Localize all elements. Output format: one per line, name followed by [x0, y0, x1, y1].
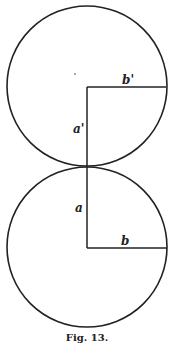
label-b-prime: b': [122, 73, 134, 87]
label-a-prime: a': [73, 122, 84, 136]
label-a: a: [75, 201, 83, 215]
figure-caption: Fig. 13.: [66, 332, 108, 343]
figure-13-diagram: b' a' a b Fig. 13.: [0, 0, 170, 345]
center-mark-dot: [74, 73, 76, 75]
label-b: b: [121, 234, 129, 248]
